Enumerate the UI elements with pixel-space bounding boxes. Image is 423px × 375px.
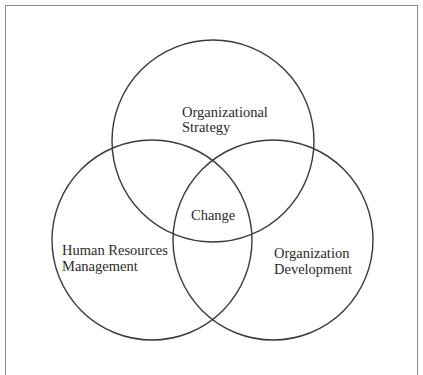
label-human-resources-line2: Management	[62, 258, 138, 274]
label-organizational-strategy-line1: Organizational	[182, 104, 268, 120]
label-human-resources-line1: Human Resources	[62, 242, 168, 258]
circle-organization-development	[173, 140, 373, 340]
label-organization-development-line2: Development	[274, 261, 352, 277]
label-change: Change	[191, 207, 235, 223]
label-organization-development-line1: Organization	[274, 245, 350, 261]
label-organizational-strategy-line2: Strategy	[182, 119, 231, 135]
circle-human-resources-management	[52, 140, 252, 340]
